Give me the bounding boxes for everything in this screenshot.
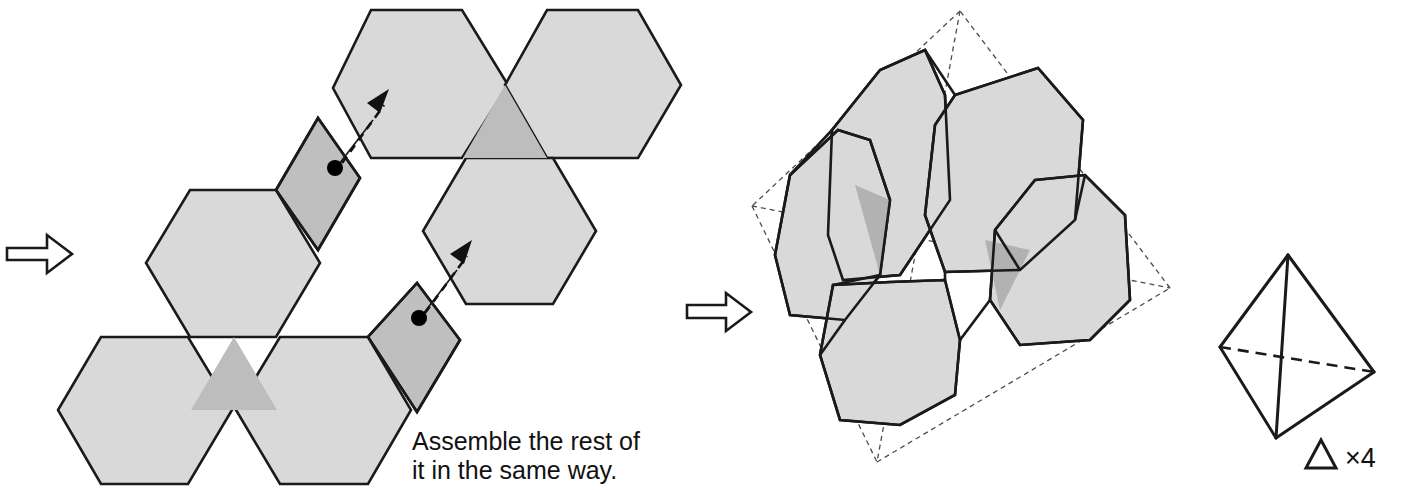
multiplier-label: ×4 [1345,443,1376,473]
step-arrow-left-icon [7,235,72,273]
reference-tetrahedron-group [1220,255,1374,438]
fold-dot-upper-icon [327,160,343,176]
tetra-edge-apex-left [1220,255,1288,347]
net-hexagon-mid-right [423,158,596,304]
caption-line-1: Assemble the rest of [412,427,640,455]
net-hexagon-bottom-left [58,337,232,484]
fold-dot-lower-icon [411,310,427,326]
tetra-hidden-edge-left-right [1220,347,1374,372]
step-arrow-middle-icon [687,293,751,331]
mini-triangle-glyph-icon [1306,440,1336,468]
figure-canvas: Assemble the rest of it in the same way. [0,0,1402,490]
tetra-edge-left-bottom [1220,347,1276,438]
unfolded-net-group [58,10,681,484]
figure-root: Assemble the rest of it in the same way. [0,0,1402,490]
tetra-edge-apex-right [1288,255,1374,372]
assembled-solid-group [752,11,1170,462]
caption-line-2: it in the same way. [412,456,617,484]
tetra-edge-apex-bottom [1276,255,1288,438]
tetra-edge-bottom-right [1276,372,1374,438]
